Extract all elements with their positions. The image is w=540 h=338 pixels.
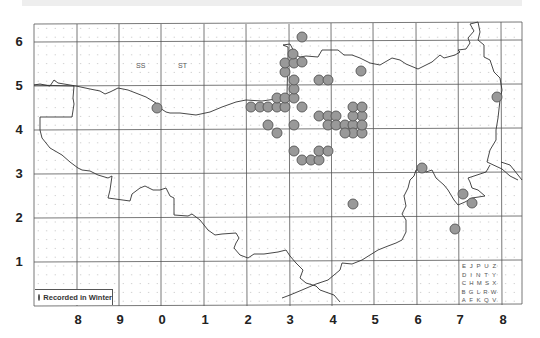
legend-label: Recorded in Winter — [43, 293, 112, 302]
tetrad-key: EJPUZ DINTY CHMSX BGLRW AFKQV — [458, 262, 500, 306]
x-label: 5 — [368, 312, 382, 327]
x-label: 7 — [453, 312, 467, 327]
x-label: 8 — [71, 312, 85, 327]
x-label: 8 — [496, 312, 510, 327]
y-label: 2 — [12, 210, 26, 225]
x-label: 3 — [283, 312, 297, 327]
grid-square-label-st: ST — [178, 62, 187, 69]
legend-dot-icon — [38, 294, 40, 301]
grid-square-label-ss: SS — [136, 62, 145, 69]
y-label: 1 — [12, 254, 26, 269]
y-label: 3 — [12, 166, 26, 181]
x-label: 2 — [241, 312, 255, 327]
x-label: 0 — [155, 312, 169, 327]
x-label: 4 — [326, 312, 340, 327]
x-label: 9 — [113, 312, 127, 327]
y-label: 6 — [12, 34, 26, 49]
y-label: 4 — [12, 122, 26, 137]
x-label: 1 — [198, 312, 212, 327]
y-label: 5 — [12, 78, 26, 93]
x-label: 6 — [411, 312, 425, 327]
legend: Recorded in Winter — [35, 289, 113, 305]
